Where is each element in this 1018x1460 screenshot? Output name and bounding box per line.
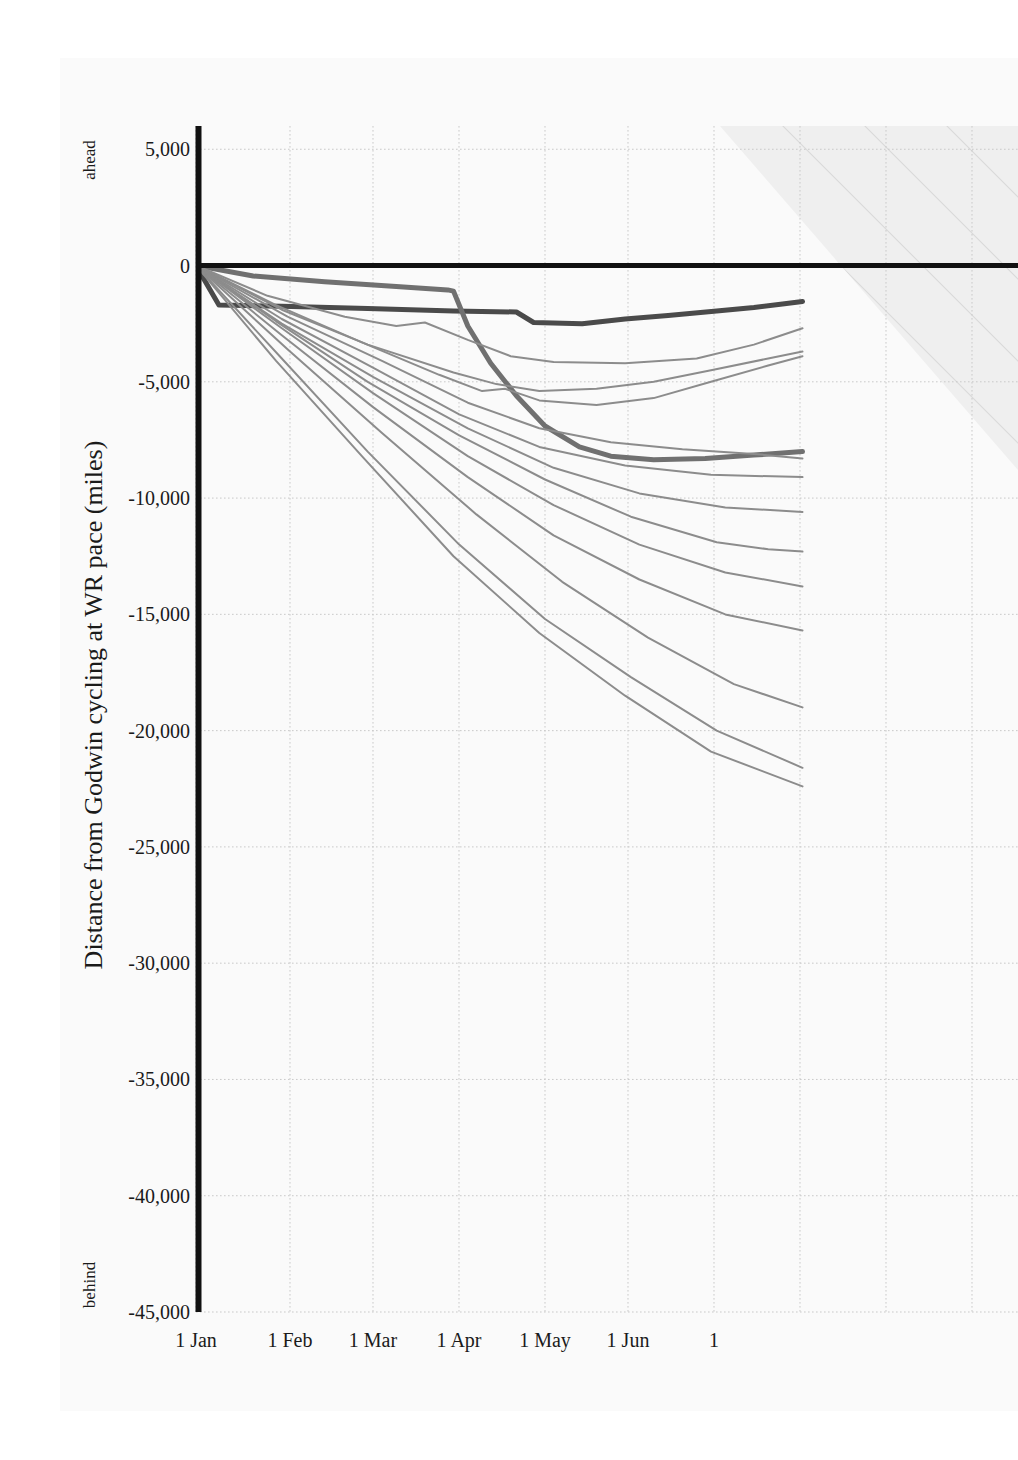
y-tick-label: -40,000	[128, 1186, 190, 1206]
shaded-hatched-region	[720, 126, 1018, 470]
series-line	[196, 266, 803, 631]
y-tick-label: -30,000	[128, 953, 190, 973]
y-tick-label: -25,000	[128, 837, 190, 857]
y-tick-label: -20,000	[128, 721, 190, 741]
series-layer	[196, 266, 803, 787]
x-tick-label: 1 Jun	[607, 1330, 650, 1350]
y-tick-label: -15,000	[128, 604, 190, 624]
x-tick-label: 1 Feb	[268, 1330, 313, 1350]
y-tick-label: -5,000	[138, 372, 190, 392]
y-tick-label: 0	[180, 256, 190, 276]
series-line	[196, 266, 803, 324]
y-axis-ahead-label: ahead	[80, 130, 100, 190]
x-tick-label: 1	[709, 1330, 719, 1350]
series-line	[196, 266, 803, 787]
chart-figure: Distance from Godwin cycling at WR pace …	[0, 0, 1018, 1460]
y-tick-label: -35,000	[128, 1069, 190, 1089]
y-tick-label: -10,000	[128, 488, 190, 508]
x-tick-label: 1 Apr	[437, 1330, 482, 1350]
series-line	[196, 266, 803, 459]
series-line	[196, 266, 803, 768]
y-tick-label: 5,000	[145, 139, 190, 159]
x-tick-label: 1 May	[519, 1330, 571, 1350]
x-tick-label: 1 Jan	[175, 1330, 217, 1350]
x-tick-label: 1 Mar	[349, 1330, 397, 1350]
vertical-gridlines	[196, 126, 972, 1312]
y-axis-behind-label: behind	[80, 1255, 100, 1315]
y-axis-title: Distance from Godwin cycling at WR pace …	[79, 375, 109, 1035]
y-tick-label: -45,000	[128, 1302, 190, 1322]
